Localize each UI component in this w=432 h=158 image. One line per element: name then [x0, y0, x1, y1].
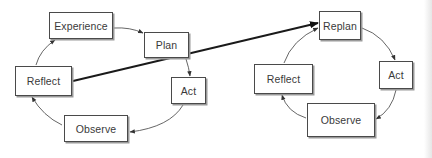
- arrow-observe-to-reflect: [32, 97, 62, 125]
- node-label: Plan: [156, 39, 177, 51]
- node-label: Act: [181, 85, 196, 97]
- arrow-act-to-observe: [130, 105, 183, 132]
- node-label: Reflect: [27, 75, 60, 87]
- node-observe-right: Observe: [307, 103, 375, 137]
- node-replan: Replan: [319, 11, 361, 40]
- node-plan: Plan: [144, 32, 189, 58]
- node-act: Act: [171, 77, 206, 104]
- arrow-observe-to-reflect-r: [282, 95, 306, 118]
- node-label: Observe: [76, 123, 116, 135]
- arrow-reflect-to-experience: [36, 40, 55, 65]
- arrow-experience-to-plan: [114, 28, 143, 33]
- diagram-canvas: Experience Plan Act Observe Reflect Repl…: [0, 0, 432, 158]
- node-act-right: Act: [379, 61, 413, 89]
- arrow-act-to-observe-r: [376, 90, 396, 119]
- node-label: Reflect: [267, 73, 300, 85]
- node-label: Experience: [54, 20, 108, 32]
- node-reflect-right: Reflect: [254, 64, 313, 94]
- node-experience: Experience: [49, 12, 113, 39]
- node-label: Observe: [321, 114, 361, 126]
- arrow-plan-to-act: [186, 59, 190, 76]
- arrow-reflect-to-replan-r: [284, 28, 318, 63]
- arrow-replan-to-act: [362, 28, 395, 60]
- page-edge-shadow: [424, 0, 432, 158]
- node-label: Act: [388, 69, 403, 81]
- node-label: Replan: [323, 20, 357, 32]
- node-observe: Observe: [64, 115, 128, 142]
- node-reflect: Reflect: [15, 66, 72, 96]
